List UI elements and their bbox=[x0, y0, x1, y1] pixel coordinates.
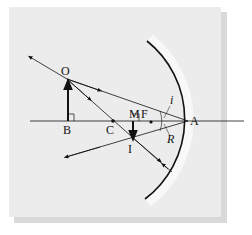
label-m: M bbox=[129, 107, 140, 121]
label-i: I bbox=[128, 142, 132, 156]
label-a: A bbox=[190, 114, 199, 128]
ray-diagram: O B C M F A I i R bbox=[0, 0, 252, 235]
label-b: B bbox=[63, 123, 71, 137]
focus-point bbox=[149, 120, 152, 123]
label-reflection-angle: R bbox=[166, 132, 175, 146]
concave-mirror bbox=[145, 41, 185, 199]
label-c: C bbox=[106, 123, 114, 137]
label-f: F bbox=[141, 107, 148, 121]
label-o: O bbox=[61, 64, 70, 78]
label-incidence-angle: i bbox=[170, 93, 173, 107]
mirror-backing bbox=[148, 38, 189, 203]
